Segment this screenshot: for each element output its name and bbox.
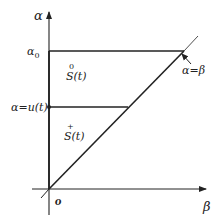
beta-axis-label: β bbox=[202, 199, 211, 214]
diagram-canvas: α β o α0 α=u(t) 0 S(t) + S(t) α=β bbox=[0, 0, 224, 224]
diagonal-pointer-arrow bbox=[182, 54, 191, 64]
origin-label: o bbox=[55, 193, 62, 208]
alpha-axis-label: α bbox=[34, 8, 43, 23]
region-s0-label: 0 S(t) bbox=[66, 62, 87, 83]
region-splus-label: + S(t) bbox=[64, 122, 85, 143]
u-level-label: α=u(t) bbox=[11, 101, 48, 114]
svg-text:S(t): S(t) bbox=[64, 130, 85, 143]
diagonal-extension bbox=[184, 36, 198, 51]
svg-text:S(t): S(t) bbox=[66, 70, 87, 83]
alpha0-label: α0 bbox=[27, 45, 40, 60]
diagonal-below-origin bbox=[41, 189, 49, 198]
diagonal-label: α=β bbox=[182, 64, 205, 77]
